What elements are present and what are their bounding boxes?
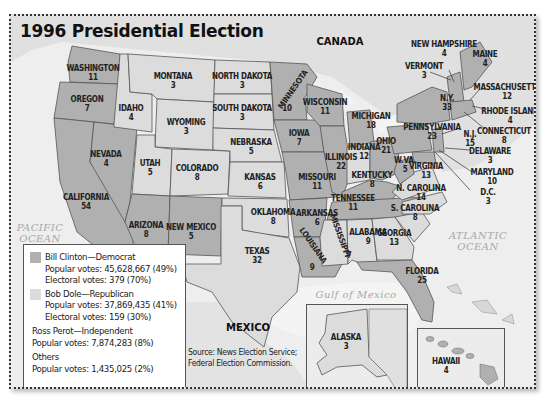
state-label-california: CALIFORNIA54: [63, 193, 109, 211]
state-label-oregon: OREGON7: [71, 95, 104, 113]
state-label-new-jersey: N.J.15: [464, 130, 477, 148]
state-label-montana: MONTANA3: [154, 72, 193, 90]
dole-swatch: [30, 289, 41, 300]
state-label-idaho: IDAHO4: [119, 104, 144, 122]
state-label-tennessee: TENNESSEE11: [331, 194, 375, 212]
state-label-texas: TEXAS32: [245, 247, 270, 265]
state-label-maryland: MARYLAND10: [471, 168, 514, 186]
legend: Bill Clinton—Democrat Popular votes: 45,…: [23, 244, 186, 388]
state-label-florida: FLORIDA25: [405, 267, 438, 285]
state-label-new-hampshire: NEW HAMPSHIRE4: [411, 40, 477, 58]
state-label-connecticut: CONNECTICUT8: [477, 127, 531, 145]
map-title: 1996 Presidential Election: [20, 21, 264, 41]
state-label-west-virginia: W.VA.5: [394, 156, 416, 174]
state-label-kansas: KANSAS6: [244, 173, 275, 191]
clinton-swatch: [30, 252, 41, 263]
legend-dole: Bob Dole—Republican Popular votes: 37,86…: [30, 288, 179, 323]
source-line-2: Federal Election Commission.: [188, 358, 297, 369]
legend-clinton: Bill Clinton—Democrat Popular votes: 45,…: [30, 251, 179, 286]
map-frame: 1996 Presidential Election CANADA MEXICO…: [9, 14, 536, 389]
state-label-new-york: N.Y.33: [440, 94, 454, 112]
others-popular: Popular votes: 1,435,025 (2%): [32, 363, 179, 375]
state-label-maine: MAINE4: [473, 50, 498, 68]
state-label-rhode-island: RHODE ISLAND4: [481, 107, 536, 125]
legend-others: Others Popular votes: 1,435,025 (2%): [30, 351, 179, 374]
state-label-new-mexico: NEW MEXICO5: [166, 223, 216, 241]
state-label-arizona: ARIZONA8: [129, 221, 164, 239]
state-label-utah: UTAH5: [140, 159, 161, 177]
pacific-ocean-label: PACIFICOCEAN: [17, 222, 64, 244]
state-label-vermont: VERMONT3: [405, 62, 443, 80]
state-label-washington: WASHINGTON11: [67, 64, 120, 82]
state-label-nebraska: NEBRASKA5: [230, 138, 271, 156]
state-label-missouri: MISSOURI11: [298, 173, 336, 191]
source-note: Source: News Election Service; Federal E…: [188, 347, 297, 369]
state-label-delaware: DELAWARE3: [469, 147, 511, 165]
hawaii-inset: HAWAII4: [417, 328, 505, 388]
state-label-alaska: ALASKA3: [331, 333, 361, 351]
dole-name: Bob Dole—Republican: [45, 288, 179, 300]
dole-electoral: Electoral votes: 159 (30%): [45, 311, 179, 323]
clinton-name: Bill Clinton—Democrat: [45, 251, 179, 263]
legend-perot: Ross Perot—Independent Popular votes: 7,…: [30, 325, 179, 348]
state-label-kentucky: KENTUCKY8: [352, 171, 393, 189]
state-label-mississippi-ev: 7: [347, 251, 352, 260]
perot-name: Ross Perot—Independent: [32, 325, 179, 337]
state-label-louisiana-ev: 9: [310, 263, 315, 272]
mexico-label: MEXICO: [226, 322, 270, 333]
state-label-north-carolina: N. CAROLINA14: [396, 184, 445, 202]
state-label-colorado: COLORADO8: [176, 164, 219, 182]
state-label-pennsylvania: PENNSYLVANIA23: [403, 123, 460, 141]
perot-popular: Popular votes: 7,874,283 (8%): [32, 337, 179, 349]
clinton-popular: Popular votes: 45,628,667 (49%): [45, 263, 179, 275]
state-label-oklahoma: OKLAHOMA8: [251, 208, 295, 226]
canada-label: CANADA: [316, 36, 363, 47]
state-label-south-dakota: SOUTH DAKOTA3: [212, 104, 272, 122]
state-label-south-carolina: S. CAROLINA8: [391, 204, 440, 222]
state-label-massachusetts: MASSACHUSETTS12: [474, 83, 536, 101]
state-label-hawaii: HAWAII4: [432, 357, 460, 375]
dole-popular: Popular votes: 37,869,435 (41%): [45, 299, 179, 311]
state-label-wyoming: WYOMING3: [167, 118, 206, 136]
state-label-michigan: MICHIGAN18: [352, 112, 391, 130]
state-label-georgia: GEORGIA13: [377, 229, 412, 247]
state-label-ohio: OHIO21: [376, 137, 396, 155]
state-label-minnesota-ev: 10: [282, 104, 291, 113]
source-line-1: Source: News Election Service;: [188, 347, 297, 358]
state-label-iowa: IOWA7: [289, 129, 310, 147]
state-label-nevada: NEVADA4: [90, 150, 121, 168]
gulf-of-mexico-label: Gulf of Mexico: [315, 289, 396, 300]
state-label-north-dakota: NORTH DAKOTA3: [212, 72, 272, 90]
others-name: Others: [32, 351, 179, 363]
alaska-inset: ALASKA3: [306, 304, 408, 389]
clinton-electoral: Electoral votes: 379 (70%): [45, 274, 179, 286]
state-label-dc: D.C.3: [480, 188, 496, 206]
state-label-wisconsin: WISCONSIN11: [303, 98, 347, 116]
atlantic-ocean-label: ATLANTICOCEAN: [449, 230, 507, 252]
